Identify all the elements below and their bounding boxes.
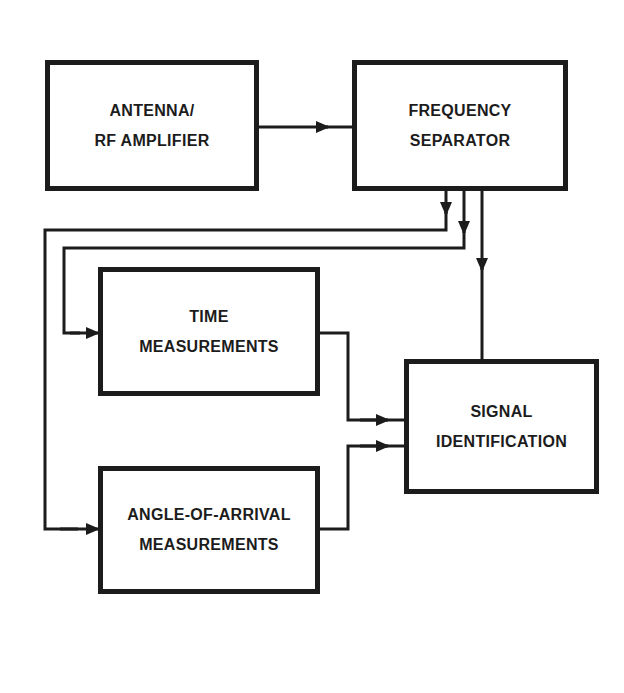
antenna-rf-amplifier-block: ANTENNA/ RF AMPLIFIER <box>45 60 259 191</box>
block-label-line2: SEPARATOR <box>410 126 511 156</box>
block-label-line2: RF AMPLIFIER <box>95 126 210 156</box>
block-label-line1: FREQUENCY <box>408 96 511 126</box>
block-label-line2: MEASUREMENTS <box>139 530 279 560</box>
time-measurements-block: TIME MEASUREMENTS <box>98 267 320 396</box>
signal-identification-block: SIGNAL IDENTIFICATION <box>404 359 599 494</box>
block-label-line1: TIME <box>189 302 228 332</box>
block-label-line2: MEASUREMENTS <box>139 332 279 362</box>
block-label-line1: ANGLE-OF-ARRIVAL <box>127 500 291 530</box>
angle-of-arrival-measurements-block: ANGLE-OF-ARRIVAL MEASUREMENTS <box>98 466 320 594</box>
connector-angle-to-signal <box>319 446 405 529</box>
connector-time-to-signal <box>319 333 405 420</box>
block-label-line1: SIGNAL <box>470 397 532 427</box>
block-label-line2: IDENTIFICATION <box>436 427 567 457</box>
block-label-line1: ANTENNA/ <box>109 96 194 126</box>
frequency-separator-block: FREQUENCY SEPARATOR <box>352 60 568 191</box>
block-diagram: ANTENNA/ RF AMPLIFIER FREQUENCY SEPARATO… <box>0 0 624 693</box>
